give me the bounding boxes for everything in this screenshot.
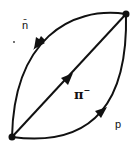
vertex-top-right — [123, 11, 130, 18]
antineutron-label: n̄ — [22, 20, 28, 31]
pion-label-charge: − — [84, 85, 91, 95]
pion-label-base: π — [74, 87, 84, 102]
vertex-bottom-left — [9, 134, 16, 141]
stray-dot — [13, 41, 15, 43]
proton-label: p — [115, 119, 121, 130]
pion-label: π− — [74, 88, 90, 101]
